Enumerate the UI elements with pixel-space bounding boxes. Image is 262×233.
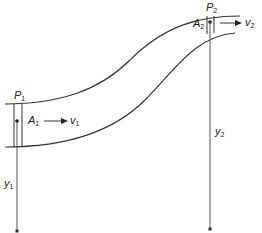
v1-arrow-head-icon bbox=[61, 118, 68, 124]
label-a1: A1 bbox=[28, 115, 39, 127]
label-p2: P2 bbox=[206, 2, 217, 14]
label-y2: y2 bbox=[215, 126, 224, 138]
pipe-bottom-wall bbox=[5, 33, 235, 147]
pipe-top-wall bbox=[5, 16, 240, 104]
label-a2: A2 bbox=[193, 18, 204, 30]
section1-center-dot bbox=[15, 119, 19, 123]
y1-ground-marker bbox=[16, 230, 19, 233]
y2-ground-marker bbox=[209, 228, 212, 231]
label-v1: v1 bbox=[70, 115, 79, 127]
label-p1: P1 bbox=[14, 90, 25, 102]
label-y1: y1 bbox=[4, 178, 13, 190]
pipe-diagram bbox=[0, 0, 262, 233]
section2-center-dot bbox=[208, 20, 212, 24]
label-v2: v2 bbox=[245, 17, 254, 29]
v2-arrow-head-icon bbox=[235, 20, 242, 26]
